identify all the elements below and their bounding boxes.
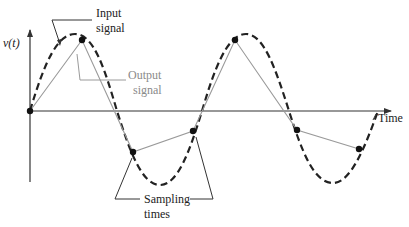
sampling-times-label-2: times <box>144 207 170 221</box>
sample-point <box>79 37 85 43</box>
y-axis-label: v(t) <box>3 36 20 50</box>
sampling-times-label-1: Sampling <box>144 192 190 206</box>
sampling-times-leader-left <box>115 158 140 199</box>
input-signal-curve <box>30 34 378 185</box>
output-signal-label-2: signal <box>133 83 162 97</box>
output-signal-label-1: Output <box>128 68 162 82</box>
output-signal-line <box>30 40 359 152</box>
sample-point <box>27 108 33 114</box>
sample-point <box>190 128 196 134</box>
output-signal-leader <box>77 54 126 80</box>
sample-point <box>356 146 362 152</box>
sample-point <box>294 127 300 133</box>
sampling-times-leader-right <box>190 137 213 199</box>
sample-point <box>130 149 136 155</box>
input-signal-label-2: signal <box>96 21 125 35</box>
x-axis-label: Time <box>378 111 403 125</box>
input-signal-label-1: Input <box>96 6 122 20</box>
sample-point <box>232 37 238 43</box>
sampling-diagram: v(t) Time Input signal Output signal Sam… <box>0 0 409 227</box>
